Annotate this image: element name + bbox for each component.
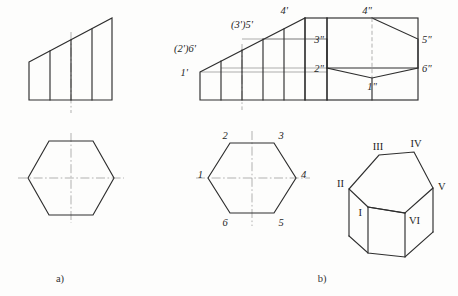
isometric-cut-face: [349, 152, 433, 213]
part-a-front-view: [29, 18, 112, 113]
label-vertex-1-top: 1: [198, 169, 203, 180]
part-b-front-outline: [200, 18, 305, 100]
label-point-4-side: 4": [362, 5, 372, 16]
part-b-isometric-view: I II III IV V VI: [337, 138, 446, 257]
label-point-6-side: 6": [422, 63, 432, 74]
isometric-base-outline: [349, 232, 433, 257]
label-vertex-5-top: 5: [278, 217, 283, 228]
part-b-top-view: 1 2 3 4 5 6: [196, 130, 310, 228]
caption-b: b): [318, 273, 327, 285]
part-b-side-hexagon: [327, 18, 418, 78]
part-b-side-view: 4" 5" 3" 6" 2" 1": [313, 5, 432, 100]
label-vertex-II-iso: II: [337, 178, 344, 189]
label-vertex-4-top: 4: [301, 169, 307, 180]
label-vertex-2-top: 2: [222, 130, 228, 141]
label-point-3-side: 3": [313, 34, 324, 45]
label-point-2-side: 2": [314, 63, 324, 74]
label-point-1-side: 1": [367, 81, 377, 92]
label-vertex-I-iso: I: [359, 207, 363, 218]
label-vertex-3-top: 3: [277, 130, 283, 141]
label-point-2-6-front: (2')6': [174, 43, 197, 55]
label-vertex-III-iso: III: [373, 141, 384, 152]
label-vertex-IV-iso: IV: [410, 138, 421, 149]
drawing-canvas: a) 1' (2')6' (3')5' 4': [0, 0, 458, 296]
label-vertex-6-top: 6: [222, 217, 228, 228]
part-b-front-view: 1' (2')6' (3')5' 4': [174, 5, 327, 110]
label-point-3-5-front: (3')5': [231, 19, 254, 31]
label-vertex-V-iso: V: [438, 181, 446, 192]
label-point-5-side: 5": [422, 34, 432, 45]
label-point-4-front: 4': [281, 5, 289, 16]
isometric-front-top-edge: [368, 207, 405, 213]
caption-a: a): [56, 273, 65, 285]
label-vertex-VI-iso: VI: [409, 215, 421, 226]
label-point-1-front: 1': [181, 67, 189, 78]
part-a-top-view: [18, 133, 124, 223]
engineering-drawing-figure: a) 1' (2')6' (3')5' 4': [0, 0, 458, 296]
